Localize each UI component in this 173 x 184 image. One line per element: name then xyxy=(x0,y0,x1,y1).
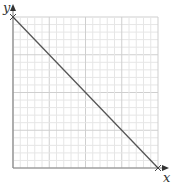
axes xyxy=(10,4,169,171)
y-axis-label: y xyxy=(2,0,11,15)
coordinate-graph: y x xyxy=(0,0,173,184)
y-axis-arrow-icon xyxy=(10,4,16,11)
x-axis-label: x xyxy=(163,170,171,184)
